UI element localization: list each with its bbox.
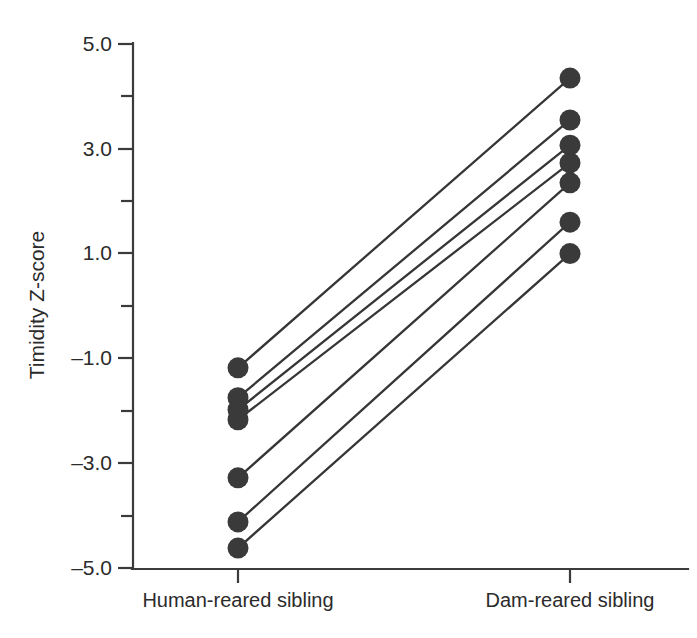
data-point[interactable] bbox=[228, 511, 249, 532]
x-tick-label-dam-reared: Dam-reared sibling bbox=[486, 589, 655, 611]
series-lines-group bbox=[238, 78, 570, 548]
y-tick-label-m1: –1.0 bbox=[71, 346, 112, 369]
chart-figure: 5.0 3.0 1.0 –1.0 –3.0 –5.0 Timidity Z-sc… bbox=[0, 0, 697, 638]
data-point[interactable] bbox=[560, 152, 581, 173]
y-tick-label-m5: –5.0 bbox=[71, 556, 112, 579]
x-tick-label-human-reared: Human-reared sibling bbox=[142, 589, 333, 611]
data-point[interactable] bbox=[228, 538, 249, 559]
y-tick-label-1: 1.0 bbox=[83, 241, 112, 264]
data-point[interactable] bbox=[560, 212, 581, 233]
y-tick-label-5: 5.0 bbox=[83, 32, 112, 55]
series-connector-pair-1 bbox=[238, 78, 570, 368]
data-point[interactable] bbox=[560, 243, 581, 264]
series-connector-pair-7 bbox=[238, 254, 570, 548]
data-point[interactable] bbox=[228, 409, 249, 430]
y-axis-title: Timidity Z-score bbox=[25, 231, 48, 380]
y-tick-label-m3: –3.0 bbox=[71, 451, 112, 474]
x-tick-marks bbox=[238, 569, 570, 583]
axis-group bbox=[132, 43, 688, 569]
series-connector-pair-4 bbox=[238, 163, 570, 420]
series-connector-pair-5 bbox=[238, 183, 570, 478]
slope-chart: 5.0 3.0 1.0 –1.0 –3.0 –5.0 Timidity Z-sc… bbox=[0, 0, 697, 638]
data-point[interactable] bbox=[560, 109, 581, 130]
data-point[interactable] bbox=[560, 172, 581, 193]
series-connector-pair-2 bbox=[238, 120, 570, 398]
series-connector-pair-6 bbox=[238, 222, 570, 522]
data-point[interactable] bbox=[228, 467, 249, 488]
data-point[interactable] bbox=[228, 357, 249, 378]
y-tick-labels: 5.0 3.0 1.0 –1.0 –3.0 –5.0 bbox=[71, 32, 112, 579]
data-point[interactable] bbox=[560, 68, 581, 89]
y-tick-label-3: 3.0 bbox=[83, 137, 112, 160]
y-tick-marks bbox=[118, 44, 133, 568]
series-connector-pair-3 bbox=[238, 145, 570, 410]
